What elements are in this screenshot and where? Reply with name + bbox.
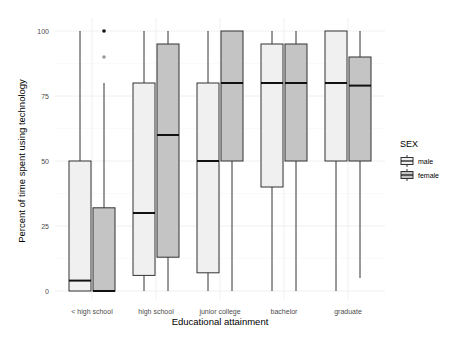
y-tick-label: 50: [41, 158, 49, 165]
y-tick-label: 0: [45, 288, 49, 295]
x-tick-label: < high school: [71, 308, 113, 316]
y-tick-label: 25: [41, 223, 49, 230]
box-male: [325, 31, 347, 291]
legend-key-male: male: [401, 155, 433, 167]
x-tick-label: graduate: [334, 308, 362, 316]
outlier-point: [102, 55, 106, 59]
box-female: [93, 29, 115, 291]
box-male: [69, 31, 91, 291]
boxplot-chart: 0255075100 < high schoolhigh schooljunio…: [0, 0, 465, 346]
box-female: [349, 31, 371, 278]
y-axis-title: Percent of time spent using technology: [16, 79, 27, 243]
x-tick-label: high school: [138, 308, 174, 316]
x-tick-label: bachelor: [271, 308, 299, 315]
outlier-point: [102, 29, 106, 33]
box-female: [285, 31, 307, 291]
x-axis-ticks: < high schoolhigh schooljunior collegeba…: [71, 308, 362, 316]
y-axis-ticks: 0255075100: [37, 28, 49, 295]
legend-key-female: female: [401, 169, 439, 181]
x-tick-label: junior college: [198, 308, 240, 316]
legend-title: SEX: [400, 139, 418, 149]
legend: SEX malefemale: [400, 139, 439, 181]
x-axis-title: Educational attainment: [172, 316, 269, 327]
box-female: [221, 31, 243, 291]
y-tick-label: 75: [41, 93, 49, 100]
legend-label: female: [418, 172, 439, 179]
box-female: [157, 31, 179, 291]
y-tick-label: 100: [37, 28, 49, 35]
box-male: [133, 31, 155, 291]
legend-label: male: [418, 158, 433, 165]
box-male: [197, 31, 219, 291]
box-male: [261, 31, 283, 291]
